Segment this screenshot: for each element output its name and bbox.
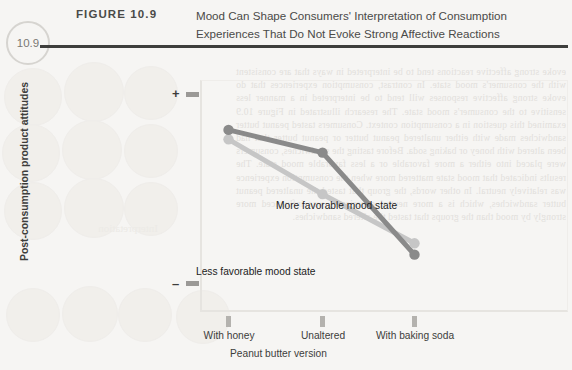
line-chart: Post-consumption product attitudes + – W… — [0, 58, 572, 370]
data-point — [409, 238, 419, 248]
figure-title-line-1: Mood Can Shape Consumers' Interpretation… — [196, 7, 568, 25]
series-annotation-less-favorable: Less favorable mood state — [196, 266, 316, 277]
chart-series-svg — [0, 58, 572, 370]
figure-title: Mood Can Shape Consumers' Interpretation… — [196, 7, 568, 42]
figure-label: FIGURE 10.9 — [76, 8, 157, 20]
data-point — [223, 125, 233, 135]
series-annotation-more-favorable: More favorable mood state — [276, 200, 397, 211]
data-point — [223, 134, 233, 144]
data-point — [317, 189, 327, 199]
header-rule — [40, 45, 568, 48]
data-point — [317, 147, 327, 157]
figure-header: 10.9 FIGURE 10.9 Mood Can Shape Consumer… — [0, 0, 572, 58]
figure-title-line-2: Experiences That Do Not Evoke Strong Aff… — [196, 25, 568, 43]
data-point — [409, 249, 419, 259]
page-background: evoke strong affective reactions tend to… — [0, 0, 572, 370]
